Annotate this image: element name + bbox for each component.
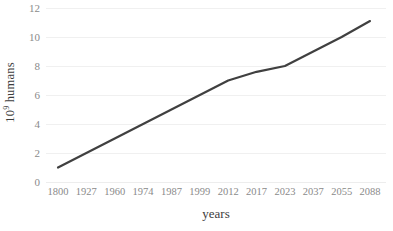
plot-area [46, 8, 386, 182]
x-tick-label: 1800 [48, 186, 69, 197]
x-tick-label: 2055 [331, 186, 352, 197]
y-tick-label: 0 [35, 176, 41, 188]
x-axis-title: years [46, 206, 386, 222]
y-axis-tick-labels: 024681012 [18, 0, 44, 185]
x-tick-label: 2088 [360, 186, 381, 197]
y-axis-title-base: 10 [3, 110, 17, 123]
y-axis-title-suffix: humans [3, 62, 17, 105]
x-tick-label: 2037 [303, 186, 324, 197]
x-tick-label: 1960 [104, 186, 125, 197]
y-tick-label: 12 [29, 2, 40, 14]
y-axis-title-exponent: 9 [1, 106, 10, 110]
x-tick-label: 1927 [76, 186, 97, 197]
x-tick-label: 2023 [274, 186, 295, 197]
x-tick-label: 2012 [218, 186, 239, 197]
y-tick-label: 8 [35, 60, 41, 72]
y-tick-label: 10 [29, 31, 40, 43]
population-line-chart: 109 humans 024681012 1800192719601974198… [0, 0, 393, 231]
x-axis-tick-labels: 1800192719601974198719992012201720232037… [46, 186, 386, 204]
y-tick-label: 6 [35, 89, 41, 101]
x-tick-label: 1987 [161, 186, 182, 197]
x-tick-label: 2017 [246, 186, 267, 197]
y-tick-label: 4 [35, 118, 41, 130]
x-tick-label: 1974 [133, 186, 154, 197]
y-axis-title: 109 humans [0, 0, 20, 185]
x-tick-label: 1999 [189, 186, 210, 197]
y-tick-label: 2 [35, 147, 41, 159]
series-line-world-population [46, 8, 386, 182]
gridline-0 [46, 182, 386, 183]
